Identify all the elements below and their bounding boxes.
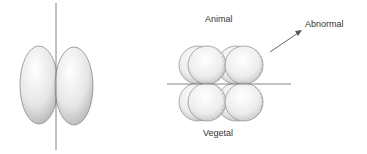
cell-front-top-right bbox=[225, 46, 263, 84]
left-blastomere bbox=[20, 46, 58, 124]
right-blastomere bbox=[55, 47, 93, 125]
eight-cell-embryo bbox=[179, 46, 263, 121]
two-cell-embryo bbox=[20, 3, 93, 150]
label-abnormal: Abnormal bbox=[305, 19, 344, 29]
arrowhead-icon bbox=[295, 30, 302, 36]
label-vegetal: Vegetal bbox=[203, 128, 233, 138]
abnormal-arrow bbox=[270, 30, 302, 52]
cell-front-bottom-left bbox=[188, 83, 226, 121]
cell-front-bottom-right bbox=[225, 83, 263, 121]
label-animal: Animal bbox=[205, 14, 233, 24]
cell-front-top-left bbox=[188, 46, 226, 84]
